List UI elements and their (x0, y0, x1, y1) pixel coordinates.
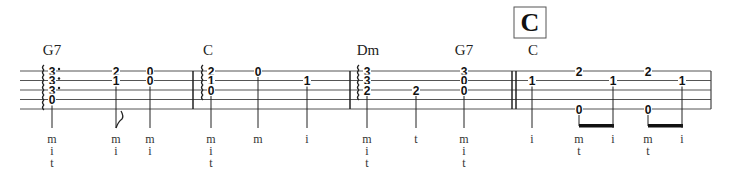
chord-name: Dm (357, 42, 380, 58)
fret-number: 2 (364, 84, 371, 98)
banjo-tab-score: C G7CDmG7C 3330mit21mi00mi210mit0m1i332m… (0, 0, 730, 178)
tab-note: 1i (528, 74, 536, 146)
roll-squiggle-icon (43, 65, 45, 110)
roll-squiggle-icon (358, 65, 360, 100)
fret-number: 0 (255, 65, 262, 79)
rehearsal-label: C (521, 8, 540, 37)
chord-names: G7CDmG7C (43, 42, 538, 58)
fret-number: 1 (113, 74, 120, 88)
finger-label: t (646, 144, 650, 158)
finger-label: i (680, 132, 684, 146)
rehearsal-mark: C (514, 7, 546, 38)
fret-number: 0 (147, 74, 154, 88)
finger-label: t (414, 132, 418, 146)
fret-number: 1 (304, 74, 311, 88)
finger-label: i (148, 144, 152, 158)
dot-icon (58, 87, 60, 89)
finger-label: t (577, 144, 581, 158)
fret-number: 0 (49, 93, 56, 107)
fret-number: 1 (610, 74, 617, 88)
tab-note: 0m (253, 65, 263, 147)
chord-name: C (528, 42, 538, 58)
tab-note: 20mt (574, 65, 614, 159)
tab-note: 00mi (145, 65, 155, 159)
fret-number: 0 (645, 103, 652, 117)
fret-number: 0 (208, 84, 215, 98)
tab-note: 1i (678, 74, 686, 146)
beam (579, 124, 614, 128)
fret-number: 0 (461, 84, 468, 98)
finger-label: i (305, 132, 309, 146)
finger-label: i (530, 132, 534, 146)
tab-note: 21mi (111, 65, 122, 159)
finger-label: t (209, 156, 213, 170)
chord-name: C (203, 42, 213, 58)
tab-note: 300mit (459, 65, 469, 171)
dot-icon (58, 77, 60, 79)
tab-note: 2t (412, 84, 420, 147)
tab-note: 1i (303, 74, 311, 146)
fret-number: 1 (529, 74, 536, 88)
fret-number: 1 (679, 74, 686, 88)
finger-label: i (611, 132, 615, 146)
chord-name: G7 (455, 42, 474, 58)
roll-squiggle-icon (202, 65, 204, 100)
fret-number: 2 (413, 84, 420, 98)
fret-number: 2 (645, 65, 652, 79)
finger-label: t (365, 156, 369, 170)
beam (648, 124, 683, 128)
tab-note: 1i (609, 74, 617, 146)
tab-note: 20mt (643, 65, 683, 159)
chord-name: G7 (43, 42, 62, 58)
finger-label: i (114, 144, 118, 158)
finger-label: t (50, 156, 54, 170)
fret-number: 0 (576, 103, 583, 117)
finger-label: t (462, 156, 466, 170)
fret-number: 2 (576, 65, 583, 79)
eighth-flag-icon (116, 111, 123, 128)
dot-icon (58, 68, 60, 70)
finger-label: m (253, 132, 263, 146)
